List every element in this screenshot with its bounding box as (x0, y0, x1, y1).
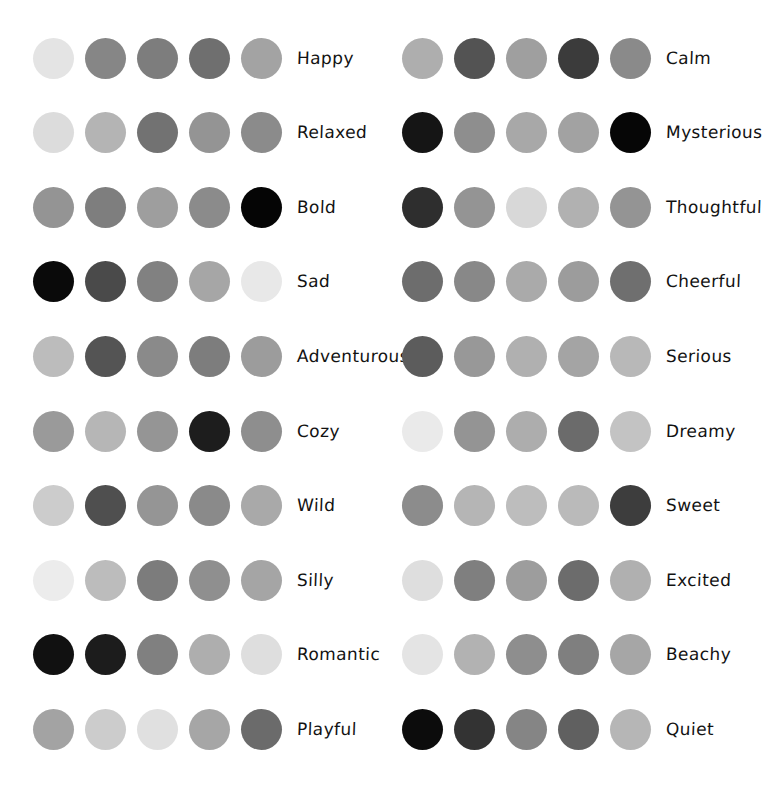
color-swatch[interactable] (85, 485, 126, 526)
color-swatch[interactable] (137, 336, 178, 377)
color-swatch[interactable] (189, 560, 230, 601)
color-swatch[interactable] (558, 261, 599, 302)
color-swatch[interactable] (506, 187, 547, 228)
palette-row[interactable]: Mysterious (402, 112, 732, 154)
palette-row[interactable]: Sweet (402, 485, 732, 527)
palette-row[interactable]: Excited (402, 559, 732, 601)
palette-row[interactable]: Adventurous (33, 335, 363, 377)
color-swatch[interactable] (33, 709, 74, 750)
color-swatch[interactable] (506, 709, 547, 750)
color-swatch[interactable] (137, 187, 178, 228)
color-swatch[interactable] (241, 38, 282, 79)
color-swatch[interactable] (610, 634, 651, 675)
color-swatch[interactable] (454, 261, 495, 302)
color-swatch[interactable] (241, 485, 282, 526)
palette-row[interactable]: Relaxed (33, 112, 363, 154)
color-swatch[interactable] (85, 634, 126, 675)
color-swatch[interactable] (189, 38, 230, 79)
color-swatch[interactable] (137, 38, 178, 79)
color-swatch[interactable] (241, 560, 282, 601)
color-swatch[interactable] (85, 261, 126, 302)
color-swatch[interactable] (137, 560, 178, 601)
color-swatch[interactable] (610, 560, 651, 601)
color-swatch[interactable] (454, 336, 495, 377)
color-swatch[interactable] (241, 187, 282, 228)
color-swatch[interactable] (33, 187, 74, 228)
color-swatch[interactable] (454, 485, 495, 526)
palette-row[interactable]: Sad (33, 261, 363, 303)
color-swatch[interactable] (85, 187, 126, 228)
color-swatch[interactable] (137, 634, 178, 675)
color-swatch[interactable] (33, 112, 74, 153)
color-swatch[interactable] (454, 38, 495, 79)
palette-row[interactable]: Dreamy (402, 410, 732, 452)
color-swatch[interactable] (189, 261, 230, 302)
color-swatch[interactable] (85, 38, 126, 79)
color-swatch[interactable] (137, 485, 178, 526)
color-swatch[interactable] (558, 112, 599, 153)
color-swatch[interactable] (558, 187, 599, 228)
color-swatch[interactable] (189, 485, 230, 526)
color-swatch[interactable] (402, 709, 443, 750)
color-swatch[interactable] (189, 411, 230, 452)
color-swatch[interactable] (454, 634, 495, 675)
color-swatch[interactable] (610, 411, 651, 452)
palette-row[interactable]: Cozy (33, 410, 363, 452)
color-swatch[interactable] (85, 411, 126, 452)
color-swatch[interactable] (506, 560, 547, 601)
palette-row[interactable]: Happy (33, 37, 363, 79)
palette-row[interactable]: Silly (33, 559, 363, 601)
color-swatch[interactable] (402, 187, 443, 228)
color-swatch[interactable] (506, 336, 547, 377)
color-swatch[interactable] (506, 112, 547, 153)
color-swatch[interactable] (402, 38, 443, 79)
color-swatch[interactable] (33, 411, 74, 452)
color-swatch[interactable] (610, 187, 651, 228)
color-swatch[interactable] (506, 38, 547, 79)
color-swatch[interactable] (402, 560, 443, 601)
color-swatch[interactable] (454, 709, 495, 750)
color-swatch[interactable] (189, 634, 230, 675)
color-swatch[interactable] (610, 485, 651, 526)
color-swatch[interactable] (137, 709, 178, 750)
color-swatch[interactable] (402, 634, 443, 675)
color-swatch[interactable] (137, 261, 178, 302)
palette-row[interactable]: Calm (402, 37, 732, 79)
color-swatch[interactable] (506, 485, 547, 526)
color-swatch[interactable] (33, 38, 74, 79)
color-swatch[interactable] (558, 634, 599, 675)
color-swatch[interactable] (454, 560, 495, 601)
color-swatch[interactable] (506, 261, 547, 302)
palette-row[interactable]: Serious (402, 335, 732, 377)
color-swatch[interactable] (85, 336, 126, 377)
palette-row[interactable]: Cheerful (402, 261, 732, 303)
color-swatch[interactable] (402, 411, 443, 452)
color-swatch[interactable] (33, 560, 74, 601)
color-swatch[interactable] (241, 709, 282, 750)
palette-row[interactable]: Thoughtful (402, 186, 732, 228)
color-swatch[interactable] (558, 411, 599, 452)
color-swatch[interactable] (454, 187, 495, 228)
color-swatch[interactable] (241, 112, 282, 153)
palette-row[interactable]: Wild (33, 485, 363, 527)
color-swatch[interactable] (558, 336, 599, 377)
color-swatch[interactable] (506, 634, 547, 675)
color-swatch[interactable] (33, 485, 74, 526)
color-swatch[interactable] (241, 411, 282, 452)
color-swatch[interactable] (189, 336, 230, 377)
palette-row[interactable]: Quiet (402, 708, 732, 750)
color-swatch[interactable] (558, 485, 599, 526)
color-swatch[interactable] (402, 336, 443, 377)
color-swatch[interactable] (402, 112, 443, 153)
color-swatch[interactable] (610, 261, 651, 302)
color-swatch[interactable] (137, 112, 178, 153)
palette-row[interactable]: Bold (33, 186, 363, 228)
color-swatch[interactable] (33, 336, 74, 377)
color-swatch[interactable] (189, 112, 230, 153)
color-swatch[interactable] (402, 261, 443, 302)
color-swatch[interactable] (454, 411, 495, 452)
palette-row[interactable]: Playful (33, 708, 363, 750)
color-swatch[interactable] (506, 411, 547, 452)
color-swatch[interactable] (137, 411, 178, 452)
color-swatch[interactable] (241, 336, 282, 377)
